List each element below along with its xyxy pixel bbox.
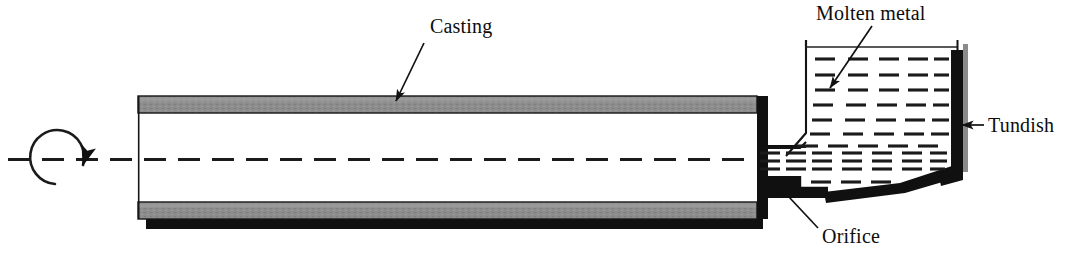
- tundish-right-wall: [951, 50, 963, 174]
- casting-shadow-bar: [146, 219, 763, 229]
- schematic-svg: Casting Molten metal Tundish Orifice: [0, 0, 1072, 255]
- figure-canvas: Casting Molten metal Tundish Orifice: [0, 0, 1072, 255]
- label-orifice: Orifice: [822, 225, 880, 247]
- molten-metal-leader-line: [830, 26, 872, 88]
- casting-tube: [138, 96, 768, 229]
- casting-bottom-wall-highlight: [139, 204, 756, 208]
- tundish-left-wall: [786, 40, 806, 156]
- casting-leader-line: [396, 43, 424, 101]
- label-casting: Casting: [430, 15, 493, 38]
- casting-top-wall-highlight: [139, 98, 756, 102]
- rotation-arc: [30, 130, 84, 184]
- label-molten-metal: Molten metal: [816, 2, 926, 24]
- molten-metal: [760, 59, 949, 182]
- tundish-bottom-right-corner: [938, 163, 963, 186]
- tundish-right-wall-shadow: [963, 44, 968, 172]
- leader-lines: [396, 26, 984, 228]
- label-tundish: Tundish: [988, 114, 1054, 136]
- rotation-direction-arrow: [30, 130, 84, 184]
